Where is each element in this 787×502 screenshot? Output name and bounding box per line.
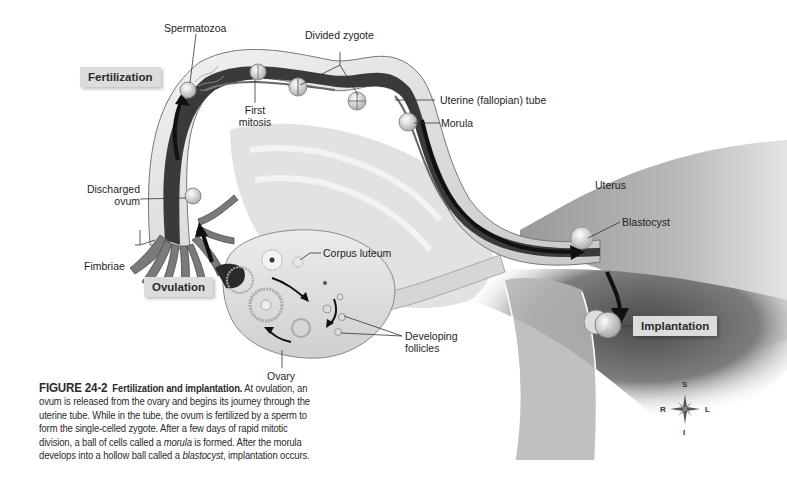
fertilized-ovum [180,82,196,98]
label-fimbriae: Fimbriae [84,260,125,272]
label-first-mitosis: First mitosis [237,104,273,128]
label-discharged-ovum: Discharged ovum [86,183,140,207]
compass-left: L [705,405,710,414]
label-ovary: Ovary [267,370,295,382]
label-uterine-tube: Uterine (fallopian) tube [440,94,546,106]
morula-cell [399,113,417,131]
stage-tag-ovulation: Ovulation [144,277,213,297]
label-corpus-luteum: Corpus luteum [323,247,391,259]
discharged-ovum-cell [185,188,201,204]
compass-inferior: I [683,428,685,437]
label-divided-zygote: Divided zygote [305,29,374,41]
stage-tag-fertilization: Fertilization [80,67,161,87]
label-blastocyst: Blastocyst [622,216,670,228]
label-developing-follicles: Developing follicles [405,330,458,354]
compass-right: R [660,405,666,414]
caption-term-morula: morula [164,437,192,448]
label-uterus: Uterus [595,179,626,191]
caption-term-blastocyst: blastocyst [182,450,223,461]
figure-title: Fertilization and implantation. [112,383,242,394]
compass-superior: S [682,380,687,389]
blastocyst-cell [571,227,593,249]
figure-caption: FIGURE 24-2 Fertilization and implantati… [39,382,320,462]
figure-number: FIGURE 24-2 [39,381,107,395]
label-morula: Morula [441,117,473,129]
figure-container: Fertilization Ovulation Implantation Spe… [0,0,787,502]
stage-tag-implantation: Implantation [633,316,717,336]
uterus-shape [470,140,787,460]
label-spermatozoa: Spermatozoa [164,22,226,34]
